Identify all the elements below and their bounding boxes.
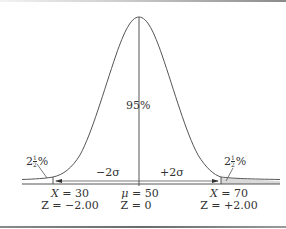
mean-z-value: Z = 0 [112, 200, 160, 212]
right-arrowhead [212, 179, 219, 183]
right-tail-fraction: 12 [231, 155, 235, 168]
minus-two-sigma-label: −2σ [96, 167, 120, 179]
left-arrowhead [55, 179, 62, 183]
center-area-label: 95% [126, 100, 150, 112]
left-tail-fraction: 12 [33, 155, 37, 168]
right-tail-whole: 2 [224, 155, 231, 168]
right-tail-label: 212% [224, 155, 246, 168]
fraction-denominator: 2 [231, 162, 235, 168]
fraction-denominator: 2 [33, 162, 37, 168]
right-z-value: Z = +2.00 [192, 200, 266, 212]
plus-two-sigma-label: +2σ [160, 167, 184, 179]
percent-sign: % [38, 155, 48, 168]
left-z-value: Z = −2.00 [36, 200, 104, 212]
left-tail-whole: 2 [26, 155, 33, 168]
left-tail-label: 212% [26, 155, 48, 168]
bottom-border [0, 226, 286, 228]
percent-sign: % [236, 155, 246, 168]
